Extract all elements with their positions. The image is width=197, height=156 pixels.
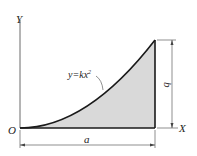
curve-exponent: 2	[88, 69, 91, 75]
width-dim-label: a	[84, 133, 90, 145]
x-axis-label: X	[178, 122, 187, 134]
shaded-region	[20, 40, 155, 128]
parabolic-area-diagram: Y X O y=kx2 a b	[0, 0, 197, 156]
a-arrow-left	[20, 144, 25, 147]
height-dim-label: b	[162, 82, 174, 88]
curve-label: y=kx2	[67, 69, 91, 80]
y-axis-label: Y	[16, 13, 24, 25]
b-arrow-bottom	[171, 123, 174, 128]
a-arrow-right	[150, 144, 155, 147]
b-arrow-top	[171, 40, 174, 45]
curve-label-leader	[96, 76, 103, 90]
origin-label: O	[8, 124, 16, 136]
